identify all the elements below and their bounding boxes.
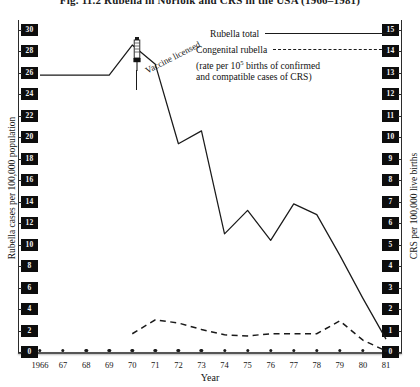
x-tick-label-69: 69 bbox=[105, 360, 114, 370]
x-tick-label-68: 68 bbox=[82, 360, 91, 370]
x-tick-label-76: 76 bbox=[266, 360, 275, 370]
vaccine-licensed-label: Vaccine licensed bbox=[144, 39, 202, 75]
legend-sample-dashed-line bbox=[273, 49, 392, 51]
x-tick-label-74: 74 bbox=[220, 360, 229, 370]
legend-sample-solid-line bbox=[265, 33, 392, 35]
x-tick-label-77: 77 bbox=[289, 360, 298, 370]
legend-item-congenital-rubella: Congenital rubella bbox=[196, 44, 392, 55]
y-axis-right-title: CRS per 100,000 live births bbox=[409, 153, 419, 259]
x-tick-label-67: 67 bbox=[59, 360, 68, 370]
x-axis-title: Year bbox=[18, 372, 402, 383]
legend-item-rubella-total: Rubella total bbox=[196, 28, 392, 39]
x-tick-label-72: 72 bbox=[174, 360, 183, 370]
x-tick-label-73: 73 bbox=[197, 360, 206, 370]
series-line-congenital-rubella bbox=[132, 320, 386, 351]
legend-sub-line2: and compatible cases of CRS) bbox=[196, 71, 312, 82]
x-tick-label-75: 75 bbox=[243, 360, 252, 370]
x-tick-label-79: 79 bbox=[336, 360, 345, 370]
x-tick-label-78: 78 bbox=[313, 360, 322, 370]
figure-title: Fig. 11.2 Rubella in Norfolk and CRS in … bbox=[0, 0, 420, 6]
vaccine-pointer-line bbox=[136, 70, 137, 90]
x-tick-label-1966: 1966 bbox=[32, 360, 49, 370]
legend-sub-part-a: (rate per 10 bbox=[196, 60, 240, 71]
syringe-icon bbox=[130, 36, 144, 72]
legend-label-congenital-rubella: Congenital rubella bbox=[196, 44, 267, 55]
x-tick-label-70: 70 bbox=[128, 360, 137, 370]
x-tick-label-81: 81 bbox=[382, 360, 391, 370]
legend-label-rubella-total: Rubella total bbox=[210, 28, 259, 39]
legend-sub-part-b: births of confirmed bbox=[244, 60, 320, 71]
chart-legend: Rubella total Congenital rubella (rate p… bbox=[196, 28, 392, 83]
y-axis-left-title: Rubella cases per 100,000 population bbox=[7, 117, 17, 260]
x-tick-label-80: 80 bbox=[359, 360, 368, 370]
x-tick-label-71: 71 bbox=[151, 360, 160, 370]
legend-congenital-rubella-sublabel: (rate per 105 births of confirmed and co… bbox=[196, 57, 392, 83]
